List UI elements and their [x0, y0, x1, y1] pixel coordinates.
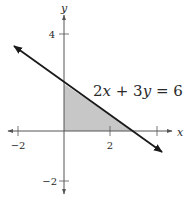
y-axis-label: y: [60, 2, 68, 15]
y-tick-label-neg2: −2: [42, 176, 57, 187]
x-tick-label-2: 2: [107, 140, 113, 151]
equation-label: 2x + 3y = 6: [93, 82, 183, 100]
y-tick-label-4: 4: [49, 29, 55, 40]
x-tick-label-neg2: −2: [11, 140, 26, 151]
x-axis-label: x: [177, 126, 184, 139]
graph: x y −2 2 4 −2 2x + 3y = 6: [0, 0, 187, 198]
